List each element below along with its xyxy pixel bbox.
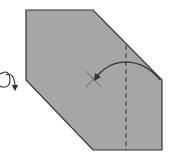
origami-diagram [0, 0, 173, 164]
turn-over-icon [0, 72, 15, 88]
